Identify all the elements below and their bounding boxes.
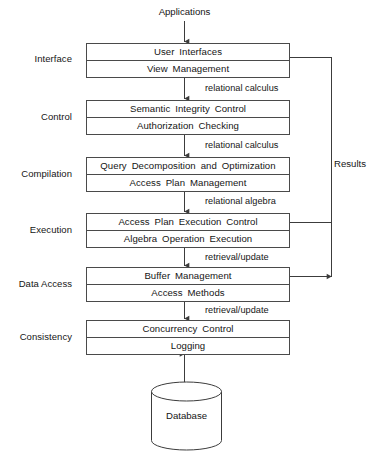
stage-label-control: Control [0, 111, 72, 122]
module-row-concurrency-control[interactable]: Concurrency Control [87, 321, 289, 338]
module-row-label: Query Decomposition and Optimization [100, 161, 275, 171]
module-row-logging[interactable]: Logging [87, 338, 289, 354]
module-row-access-plan-management[interactable]: Access Plan Management [87, 175, 289, 191]
module-row-label: Authorization Checking [137, 121, 239, 131]
module-box-consistency[interactable]: Concurrency Control Logging [86, 320, 290, 355]
edge-label-execution-to-data-access: retrieval/update [205, 252, 269, 263]
module-row-query-decomposition-and-optimization[interactable]: Query Decomposition and Optimization [87, 158, 289, 175]
module-row-label: Algebra Operation Execution [124, 234, 252, 244]
module-row-view-management[interactable]: View Management [87, 61, 289, 77]
edge-label-control-to-compilation: relational calculus [205, 140, 278, 151]
module-row-label: Access Methods [151, 288, 224, 298]
stage-label-compilation: Compilation [0, 168, 72, 179]
module-row-semantic-integrity-control[interactable]: Semantic Integrity Control [87, 101, 289, 118]
edge-label-compilation-to-execution: relational algebra [205, 196, 276, 207]
module-row-label: Access Plan Execution Control [118, 217, 257, 227]
module-row-label: Concurrency Control [142, 324, 233, 334]
edge-label-data-access-to-consistency: retrieval/update [205, 305, 269, 316]
module-box-interface[interactable]: User Interfaces View Management [86, 43, 290, 78]
edge-label-interface-to-control: relational calculus [205, 83, 278, 94]
module-box-execution[interactable]: Access Plan Execution Control Algebra Op… [86, 213, 290, 248]
stage-label-consistency: Consistency [0, 331, 72, 342]
module-row-label: View Management [147, 64, 229, 74]
module-row-user-interfaces[interactable]: User Interfaces [87, 44, 289, 61]
module-row-algebra-operation-execution[interactable]: Algebra Operation Execution [87, 231, 289, 247]
stage-label-data-access: Data Access [0, 278, 72, 289]
module-row-label: User Interfaces [154, 47, 222, 57]
stage-label-execution: Execution [0, 224, 72, 235]
module-box-compilation[interactable]: Query Decomposition and Optimization Acc… [86, 157, 290, 192]
module-row-authorization-checking[interactable]: Authorization Checking [87, 118, 289, 134]
module-box-control[interactable]: Semantic Integrity Control Authorization… [86, 100, 290, 135]
dbms-layered-architecture-diagram: Applications Results Interface User Inte… [0, 0, 374, 461]
module-row-buffer-management[interactable]: Buffer Management [87, 268, 289, 285]
module-box-data-access[interactable]: Buffer Management Access Methods [86, 267, 290, 302]
module-row-label: Semantic Integrity Control [130, 104, 246, 114]
stage-label-interface: Interface [0, 53, 72, 64]
results-label: Results [334, 158, 366, 169]
applications-label: Applications [134, 6, 235, 17]
module-row-access-plan-execution-control[interactable]: Access Plan Execution Control [87, 214, 289, 231]
module-row-label: Buffer Management [144, 271, 231, 281]
module-row-label: Logging [171, 341, 206, 351]
module-row-access-methods[interactable]: Access Methods [87, 285, 289, 301]
module-row-label: Access Plan Management [130, 178, 247, 188]
database-label: Database [151, 410, 222, 421]
